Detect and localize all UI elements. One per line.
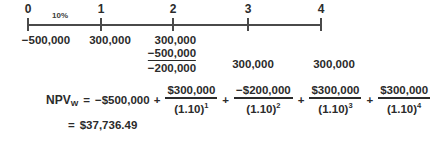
npv-result-line: = $37,736.49 — [46, 116, 431, 134]
npv-result-value: $37,736.49 — [80, 119, 138, 131]
period-label-3: 3 — [245, 2, 252, 16]
plus-sign-2: + — [218, 94, 233, 106]
cash-flow-period-1: 300,000 — [89, 34, 131, 46]
term-2-denominator: (1.10)2 — [244, 99, 282, 116]
timeline-tick-4 — [320, 18, 322, 31]
term-3-numerator: $300,000 — [309, 84, 361, 97]
discounted-term-4: $300,000 (1.10)4 — [378, 84, 430, 115]
subtraction-operand-inflow: 300,000 — [148, 34, 196, 47]
npv-equation-line: NPVW = −$500,000 + $300,000 (1.10)1 + −$… — [46, 84, 431, 116]
period-label-1: 1 — [98, 2, 105, 16]
discount-rate-label: 10% — [52, 11, 68, 20]
timeline-tick-2 — [172, 18, 174, 31]
timeline-tick-1 — [100, 18, 102, 31]
equals-sign-2: = — [63, 119, 80, 131]
cash-flow-period-3: 300,000 — [232, 58, 274, 70]
term-4-numerator: $300,000 — [378, 84, 430, 97]
discounted-term-1: $300,000 (1.10)1 — [165, 84, 217, 115]
plus-sign-4: + — [362, 94, 377, 106]
period-2-net-cash-flow-calculation: 300,000 −500,000 −200,000 — [148, 34, 196, 75]
term-1-denominator: (1.10)1 — [172, 99, 210, 116]
term-4-denominator: (1.10)4 — [385, 99, 423, 116]
cash-flow-period-4: 300,000 — [313, 58, 355, 70]
timeline-tick-3 — [247, 18, 249, 31]
discounted-term-3: $300,000 (1.10)3 — [309, 84, 361, 115]
discounted-term-2: −$200,000 (1.10)2 — [234, 84, 293, 115]
term-3-denominator: (1.10)3 — [316, 99, 354, 116]
npv-label: NPVW — [46, 93, 78, 107]
initial-outlay-term: −$500,000 — [95, 94, 150, 106]
term-1-numerator: $300,000 — [165, 84, 217, 97]
cash-flow-period-0: −500,000 — [22, 34, 70, 46]
timeline-axis — [27, 24, 322, 26]
subtraction-operand-outflow: −500,000 — [148, 47, 196, 60]
period-label-4: 4 — [318, 2, 325, 16]
period-label-2: 2 — [170, 2, 177, 16]
plus-sign-1: + — [150, 94, 165, 106]
term-2-numerator: −$200,000 — [234, 84, 293, 97]
timeline-tick-0 — [27, 18, 29, 31]
equals-sign-1: = — [78, 94, 95, 106]
npv-equation: NPVW = −$500,000 + $300,000 (1.10)1 + −$… — [46, 84, 431, 134]
cash-flow-timeline: 0 1 2 3 4 10% −500,000 300,000 300,000 3… — [0, 0, 388, 80]
plus-sign-3: + — [294, 94, 309, 106]
subtraction-result: −200,000 — [148, 60, 196, 75]
period-label-0: 0 — [25, 2, 32, 16]
